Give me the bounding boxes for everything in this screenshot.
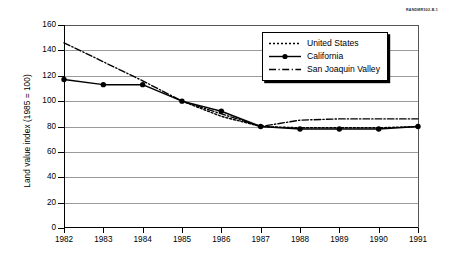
data-point-marker: [101, 82, 106, 87]
land-value-index-chart: RANDMR502-B.1 Land value index (1985 = 1…: [0, 0, 450, 258]
legend-item-california: California: [268, 50, 380, 63]
legend-swatch-california: [268, 51, 302, 62]
legend-label-california: California: [307, 52, 343, 61]
data-point-marker: [415, 124, 420, 129]
legend-label-san-joaquin-valley: San Joaquin Valley: [307, 65, 380, 74]
data-point-marker: [61, 77, 66, 82]
data-point-marker: [297, 126, 302, 131]
data-point-marker: [337, 126, 342, 131]
legend-item-united-states: United States: [268, 37, 380, 50]
legend-item-san-joaquin-valley: San Joaquin Valley: [268, 63, 380, 76]
data-point-marker: [376, 126, 381, 131]
data-point-marker: [140, 82, 145, 87]
legend-label-united-states: United States: [307, 39, 359, 48]
legend-swatch-united-states: [268, 38, 302, 49]
legend-swatch-san-joaquin-valley: [268, 64, 302, 75]
series-line-united-states: [182, 101, 418, 128]
chart-legend: United States California San Joaquin Val…: [262, 32, 388, 81]
